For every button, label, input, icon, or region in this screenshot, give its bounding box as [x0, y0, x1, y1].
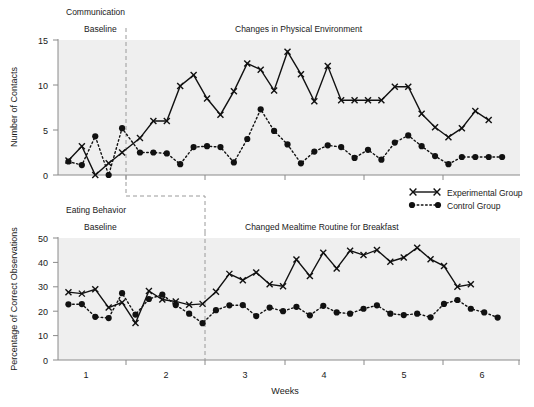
behavior-label-communication: Communication — [66, 7, 125, 17]
dot-marker — [231, 159, 237, 165]
dot-marker — [378, 157, 384, 163]
dot-marker — [204, 143, 210, 149]
dot-marker — [79, 162, 85, 168]
dot-marker — [284, 141, 290, 147]
dot-marker — [325, 142, 331, 148]
legend-label-control-group: Control Group — [447, 201, 501, 211]
x-tick-label-3: 3 — [242, 370, 247, 380]
x-tick-label-5: 5 — [401, 370, 406, 380]
dot-marker — [267, 304, 273, 310]
dot-marker — [419, 143, 425, 149]
dot-marker — [320, 303, 326, 309]
dot-marker — [392, 140, 398, 146]
dot-marker — [119, 125, 125, 131]
dot-marker — [481, 309, 487, 315]
dot-marker — [338, 144, 344, 150]
dot-marker-legend-end — [435, 202, 441, 208]
dot-marker — [106, 315, 112, 321]
legend-entry-control-group[interactable]: Control Group — [409, 201, 501, 211]
dot-marker — [360, 306, 366, 312]
dot-marker — [159, 292, 165, 298]
dot-marker — [280, 308, 286, 314]
x-tick-label-6: 6 — [479, 370, 484, 380]
dot-marker — [486, 154, 492, 160]
y-tick-label-15-communication: 15 — [38, 36, 48, 46]
dot-marker — [387, 311, 393, 317]
y-tick-label-10-eating: 10 — [38, 331, 48, 341]
multiple-baseline-figure: 15 10 5 0 Number of Contacts Communicati… — [0, 0, 534, 407]
dot-marker — [79, 301, 85, 307]
dot-marker-legend-start — [409, 202, 415, 208]
dot-marker — [106, 172, 112, 178]
dot-marker — [298, 160, 304, 166]
dot-marker — [468, 306, 474, 312]
dot-marker — [499, 154, 505, 160]
plot-area-communication — [58, 40, 520, 175]
y-tick-label-0-eating: 0 — [43, 356, 48, 366]
dot-marker — [472, 154, 478, 160]
y-tick-label-5-communication: 5 — [43, 126, 48, 136]
dot-marker — [365, 147, 371, 153]
dot-marker — [347, 311, 353, 317]
dot-marker — [213, 307, 219, 313]
intervention-label-communication: Changes in Physical Environment — [235, 24, 363, 34]
y-axis-title-communication: Number of Contacts — [9, 66, 19, 147]
dot-marker — [374, 302, 380, 308]
y-tick-label-20-eating: 20 — [38, 307, 48, 317]
dot-marker — [244, 136, 250, 142]
x-tick-label-2: 2 — [163, 370, 168, 380]
y-tick-label-10-communication: 10 — [38, 81, 48, 91]
dot-marker — [441, 301, 447, 307]
baseline-label-eating-behavior: Baseline — [84, 222, 117, 232]
dot-marker — [445, 161, 451, 167]
dot-marker — [405, 132, 411, 138]
dot-marker — [427, 314, 433, 320]
dot-marker — [258, 106, 264, 112]
intervention-label-eating-behavior: Changed Mealtime Routine for Breakfast — [245, 222, 399, 232]
dot-marker — [226, 302, 232, 308]
dot-marker — [191, 144, 197, 150]
dot-marker — [92, 133, 98, 139]
dot-marker — [401, 312, 407, 318]
y-tick-label-40-eating: 40 — [38, 258, 48, 268]
dot-marker — [65, 158, 71, 164]
chart-svg: 15 10 5 0 Number of Contacts Communicati… — [0, 0, 534, 407]
dot-marker — [92, 314, 98, 320]
x-tick-label-4: 4 — [321, 370, 326, 380]
baseline-label-communication: Baseline — [84, 24, 117, 34]
y-tick-label-30-eating: 30 — [38, 282, 48, 292]
dot-marker — [150, 149, 156, 155]
dot-marker — [199, 320, 205, 326]
dot-marker — [240, 302, 246, 308]
dot-marker — [164, 150, 170, 156]
dot-marker — [307, 312, 313, 318]
y-axis-title-eating-behavior: Percentage of Correct Observations — [9, 227, 19, 371]
y-tick-label-50-eating: 50 — [38, 234, 48, 244]
legend-entry-experimental-group[interactable]: Experimental Group — [410, 188, 523, 198]
dot-marker — [334, 309, 340, 315]
dot-marker — [132, 312, 138, 318]
x-axis-title: Weeks — [271, 386, 299, 396]
dot-marker — [186, 311, 192, 317]
x-tick-label-1: 1 — [83, 370, 88, 380]
dot-marker — [137, 149, 143, 155]
dot-marker — [253, 313, 259, 319]
plot-area-eating-behavior — [58, 238, 520, 360]
dot-marker — [311, 149, 317, 155]
dot-marker — [173, 302, 179, 308]
dot-marker — [293, 304, 299, 310]
dot-marker — [432, 153, 438, 159]
dot-marker — [459, 154, 465, 160]
dot-marker — [495, 314, 501, 320]
dot-marker — [271, 128, 277, 134]
legend-label-experimental-group: Experimental Group — [447, 188, 523, 198]
dot-marker — [351, 155, 357, 161]
dot-marker — [146, 296, 152, 302]
dot-marker — [454, 297, 460, 303]
dot-marker — [177, 161, 183, 167]
dot-marker — [65, 301, 71, 307]
dot-marker — [217, 144, 223, 150]
legend: Experimental Group Control Group — [409, 188, 523, 211]
dot-marker — [119, 290, 125, 296]
y-tick-label-0-communication: 0 — [43, 171, 48, 181]
